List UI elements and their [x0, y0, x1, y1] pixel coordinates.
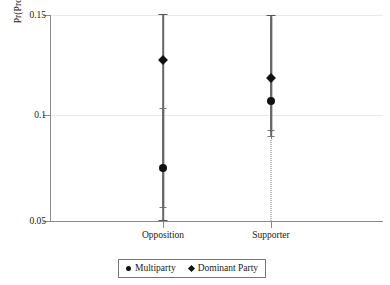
x-tick-label-opposition: Opposition	[142, 230, 184, 240]
diamond-marker-icon	[188, 264, 195, 271]
errorbar-dotted-supporter	[271, 137, 272, 221]
datapoint-supporter-dominant-party	[266, 73, 276, 83]
x-tick-label-supporter: Supporter	[252, 230, 289, 240]
datapoint-opposition-multiparty	[159, 164, 167, 172]
chart-legend: Multiparty Dominant Party	[118, 259, 266, 278]
legend-label-multiparty: Multiparty	[135, 262, 176, 274]
errorbar-cap-top-opposition-multiparty	[160, 108, 167, 109]
datapoint-supporter-multiparty	[267, 97, 275, 105]
datapoint-opposition-dominant-party	[158, 55, 168, 65]
y-tick-label-0: 0.15	[29, 10, 46, 20]
y-axis-spine	[50, 15, 51, 222]
gridline-0.10	[50, 115, 383, 116]
x-tick-mark-supporter	[271, 222, 272, 228]
figure-canvas: Pr(Protest Participation) 0.15 0.1 0.05 …	[0, 0, 390, 285]
gridline-0.15	[50, 15, 383, 16]
legend-entry-dominant-party: Dominant Party	[189, 262, 258, 274]
errorbar-cap-top-opposition-dominant	[159, 14, 168, 15]
errorbar-cap-bottom-opposition-multiparty	[159, 220, 168, 221]
circle-marker-icon	[126, 266, 131, 271]
x-tick-mark-opposition	[163, 222, 164, 228]
plot-area: 0.15 0.1 0.05 Opposition Supporter	[50, 15, 383, 222]
legend-entry-multiparty: Multiparty	[126, 262, 176, 274]
y-tick-label-2: 0.05	[29, 216, 46, 226]
x-axis-spine	[50, 221, 383, 222]
y-axis-label: Pr(Protest Participation)	[10, 0, 26, 56]
legend-label-dominant-party: Dominant Party	[198, 262, 258, 274]
y-tick-label-1: 0.1	[34, 110, 46, 120]
